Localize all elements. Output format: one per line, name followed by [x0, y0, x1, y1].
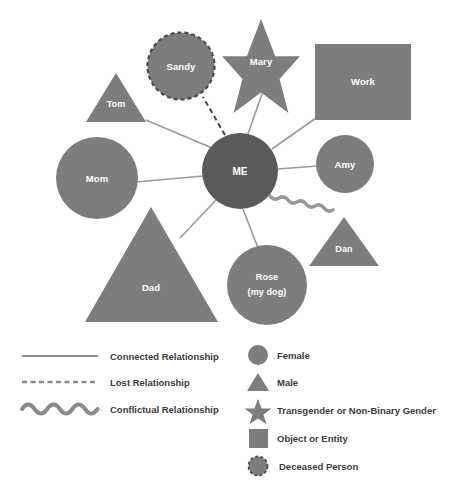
mary-label: Mary — [250, 56, 273, 67]
node-mom[interactable]: Mom — [56, 137, 138, 219]
dan-label: Dan — [335, 244, 352, 254]
legend-item-lost: Lost Relationship — [22, 377, 190, 388]
rose-label-line1: Rose — [256, 272, 278, 282]
node-tom[interactable]: Tom — [86, 73, 146, 122]
node-dan[interactable]: Dan — [309, 217, 379, 266]
connection-me-mom — [136, 176, 203, 182]
amy-label: Amy — [335, 159, 357, 170]
legend-label-connected: Connected Relationship — [110, 351, 219, 362]
connection-me-work — [272, 118, 316, 149]
triangle-icon — [247, 373, 269, 391]
node-amy[interactable]: Amy — [316, 135, 374, 193]
dad-shape — [85, 207, 218, 322]
legend-item-conflictual: Conflictual Relationship — [22, 404, 219, 415]
rose-label-line2: (my dog) — [248, 287, 287, 297]
tom-label: Tom — [107, 99, 126, 109]
connection-me-dad — [180, 200, 216, 238]
legend-label-lost: Lost Relationship — [110, 377, 190, 388]
connection-me-tom — [146, 120, 212, 148]
node-sandy[interactable]: Sandy — [148, 33, 215, 100]
square-icon — [249, 429, 268, 448]
connection-me-amy — [278, 166, 317, 169]
legend-item-male: Male — [247, 373, 298, 391]
legend-label-object: Object or Entity — [277, 433, 348, 444]
mom-label: Mom — [86, 173, 108, 184]
legend-item-deceased: Deceased Person — [249, 457, 359, 476]
dad-label: Dad — [142, 282, 160, 293]
legend-item-female: Female — [248, 345, 310, 365]
ecomap-diagram: Sandy Mary Work Tom Mom Dad — [0, 0, 462, 490]
legend-symbols: Female Male Transgender or Non-Binary Ge… — [244, 345, 436, 476]
legend-label-conflictual: Conflictual Relationship — [110, 404, 219, 415]
legend-item-transgender: Transgender or Non-Binary Gender — [244, 399, 436, 424]
dan-shape — [309, 217, 379, 266]
ecomap-page: Sandy Mary Work Tom Mom Dad — [0, 0, 462, 490]
node-rose[interactable]: Rose (my dog) — [227, 245, 307, 325]
legend-label-female: Female — [277, 350, 310, 361]
node-work[interactable]: Work — [315, 44, 411, 120]
connection-me-sandy — [203, 97, 225, 135]
legend-label-male: Male — [277, 377, 298, 388]
node-me[interactable]: ME — [202, 133, 278, 209]
circle-icon — [248, 345, 268, 365]
node-dad[interactable]: Dad — [85, 207, 218, 322]
wavy-line-icon — [22, 405, 98, 414]
tom-shape — [86, 73, 146, 122]
sandy-label: Sandy — [166, 61, 196, 72]
connection-me-dan — [270, 196, 333, 211]
legend-label-deceased: Deceased Person — [279, 461, 358, 472]
connection-me-rose — [243, 209, 258, 248]
work-label: Work — [351, 76, 376, 87]
legend-label-transgender: Transgender or Non-Binary Gender — [277, 405, 436, 416]
legend-relationships: Connected Relationship Lost Relationship… — [22, 351, 219, 415]
me-label: ME — [232, 166, 247, 177]
legend-item-object: Object or Entity — [249, 429, 348, 448]
legend-item-connected: Connected Relationship — [22, 351, 219, 362]
star-icon — [244, 399, 271, 424]
rose-shape — [227, 245, 307, 325]
dashed-circle-icon — [249, 457, 268, 476]
